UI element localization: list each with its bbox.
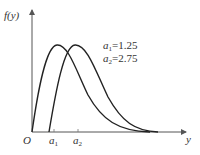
legend-a2: a2=2.75 (103, 52, 138, 66)
x-axis-label: y (185, 133, 191, 145)
y-axis-label: f(y) (4, 9, 20, 22)
tick-label-a2: a2 (73, 134, 83, 148)
origin-label: O (23, 134, 31, 146)
legend-a1: a1=1.25 (103, 39, 138, 53)
density-chart: f(y) y O a1 a2 a1=1.25 a2=2.75 (0, 0, 200, 155)
tick-label-a1: a1 (49, 134, 59, 148)
